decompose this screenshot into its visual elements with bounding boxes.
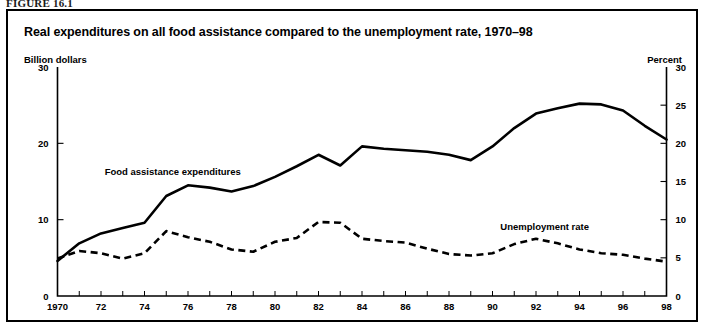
figure-number-label: FIGURE 16.1 bbox=[6, 0, 73, 9]
figure-frame: Real expenditures on all food assistance… bbox=[6, 9, 698, 322]
right-axis-title: Percent bbox=[647, 54, 682, 65]
chart-title: Real expenditures on all food assistance… bbox=[24, 25, 533, 39]
left-axis-title: Billion dollars bbox=[24, 54, 87, 65]
